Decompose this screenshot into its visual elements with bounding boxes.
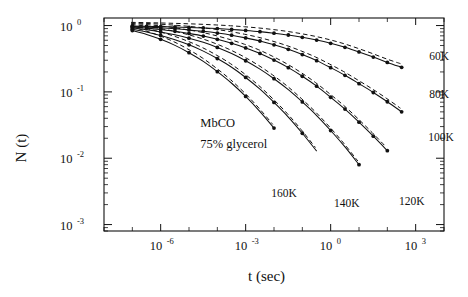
data-point [286,47,290,51]
data-point [371,55,375,59]
data-point [215,31,219,35]
y-tick-exponent: 0 [77,17,81,27]
series-label-80K: 80K [429,88,450,100]
data-point [244,36,248,40]
data-point [286,33,290,37]
data-point [244,29,248,33]
data-point [315,38,319,42]
data-point [357,163,361,167]
data-point [385,100,389,104]
figure-panel: 10-610-310010310010-110-210-360K80K100K1… [0,0,468,297]
data-point [272,31,276,35]
data-point [343,107,347,111]
data-point [300,35,304,39]
data-point [400,65,404,69]
data-point [159,37,163,41]
data-point [272,100,276,104]
data-point [258,39,262,43]
data-point [215,46,219,50]
x-tick-label: 10 [235,239,248,253]
data-point [315,59,319,63]
data-point [357,120,361,124]
data-point [258,30,262,34]
series-label-100K: 100K [428,131,454,143]
data-point [230,33,234,37]
data-point [244,76,248,80]
data-point [300,53,304,57]
series-fit-curve-160K [132,31,274,128]
data-point [244,46,248,50]
series-label-60K: 60K [429,50,450,62]
series-label-140K: 140K [334,197,360,209]
data-point [215,57,219,61]
y-tick-label: 10 [60,152,73,166]
series-label-160K: 160K [271,187,297,199]
data-point [385,61,389,65]
kinetics-plot: 10-610-310010310010-110-210-360K80K100K1… [0,0,468,297]
x-tick-label: 10 [320,239,333,253]
x-tick-exponent: -6 [167,236,174,246]
data-point [230,28,234,32]
data-point [272,43,276,47]
y-tick-label: 10 [60,86,73,100]
data-point [315,84,319,88]
x-tick-exponent: 3 [422,236,426,246]
data-point [385,149,389,153]
y-tick-exponent: -1 [77,83,84,93]
data-point [258,52,262,56]
data-point [286,66,290,70]
data-point [300,100,304,104]
plot-annotation-0: MbCO [200,116,235,130]
y-axis-title: N (t) [13,134,30,163]
data-point [329,95,333,99]
data-point [357,82,361,86]
data-point [371,134,375,138]
data-point [343,73,347,77]
series-label-120K: 120K [399,195,425,207]
data-point [215,70,219,74]
x-tick-label: 10 [405,239,418,253]
x-tick-exponent: -3 [252,236,259,246]
data-point [230,41,234,45]
data-point [272,126,276,130]
plot-annotation-1: 75% glycerol [200,137,268,151]
data-point [400,110,404,114]
data-point [300,74,304,78]
data-point [244,95,248,99]
data-point [343,45,347,49]
data-point [215,37,219,41]
data-point [371,91,375,95]
data-point [130,29,134,33]
data-point [329,41,333,45]
x-tick-label: 10 [150,239,163,253]
x-axis-title: t (sec) [248,268,285,285]
y-tick-label: 10 [60,20,73,34]
y-tick-label: 10 [60,219,73,233]
x-tick-exponent: 0 [337,236,341,246]
data-point [357,50,361,54]
y-tick-exponent: -2 [77,149,84,159]
series-fit-curve-60K [132,26,401,67]
data-point [187,43,191,47]
data-point [329,66,333,70]
data-point [187,51,191,55]
y-tick-exponent: -3 [77,216,84,226]
data-point [272,58,276,62]
data-point [187,36,191,40]
plot-frame [104,18,444,231]
data-point [201,34,205,38]
data-point [244,59,248,63]
data-point [329,129,333,133]
data-point [300,131,304,135]
data-point [272,77,276,81]
